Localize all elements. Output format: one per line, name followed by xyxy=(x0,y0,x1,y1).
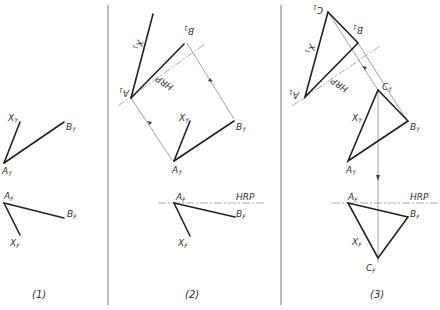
label-c1: C1 xyxy=(313,4,323,15)
label-bt: BT xyxy=(66,122,77,133)
panel-1: XT BT AT AF BF XF (1) xyxy=(1,113,77,300)
line-af-xf xyxy=(174,203,190,236)
label-bf: BF xyxy=(410,209,420,220)
label-af: AF xyxy=(175,192,186,203)
label-af: AF xyxy=(347,192,358,203)
caption-1: (1) xyxy=(32,289,46,300)
line-at-bt xyxy=(174,121,234,161)
line-at-bt xyxy=(4,122,64,163)
label-a1: A1 xyxy=(119,87,130,98)
line-af-bf xyxy=(174,203,235,217)
label-bf: BF xyxy=(67,209,77,220)
panel-3: A1 B1 C1 X1 HRP CT XT BT AT AF HRP BF XF… xyxy=(289,4,440,300)
label-hrp-aux: HRP xyxy=(154,73,175,92)
label-xf: XF xyxy=(177,238,188,249)
label-at: AT xyxy=(171,165,183,176)
label-xt: XT xyxy=(351,113,363,124)
label-bf: BF xyxy=(236,209,246,220)
label-ct: CT xyxy=(382,82,393,93)
label-hrp-aux: HRP xyxy=(329,75,350,94)
label-cf: CF xyxy=(366,263,376,274)
label-b1: B1 xyxy=(184,25,194,36)
label-at: AT xyxy=(345,165,357,176)
label-xf: XF xyxy=(351,237,362,248)
panel-2: A1 B1 X1 HRP XT BT AT AF HRP BF XF (2) xyxy=(118,14,265,300)
label-at: AT xyxy=(1,166,13,177)
label-bt: BT xyxy=(410,122,421,133)
label-af: AF xyxy=(3,191,14,202)
label-x1: X1 xyxy=(304,42,317,55)
label-xt: XT xyxy=(178,113,190,124)
orthographic-projection-figure: XT BT AT AF BF XF (1) A1 B1 X1 HRP XT BT… xyxy=(0,0,440,310)
line-a1-x1 xyxy=(131,14,153,98)
label-hrp-front: HRP xyxy=(236,192,255,202)
label-xt: XT xyxy=(7,113,19,124)
line-af-xf xyxy=(4,203,20,235)
label-xf: XF xyxy=(9,238,20,249)
arrow-down xyxy=(376,175,380,181)
label-a1: A1 xyxy=(289,89,300,100)
label-bt: BT xyxy=(236,122,247,133)
projector-a xyxy=(131,98,172,160)
caption-3: (3) xyxy=(370,289,384,300)
line-af-bf xyxy=(4,203,64,218)
caption-2: (2) xyxy=(185,289,199,300)
line-a1-b1 xyxy=(131,44,184,98)
label-hrp-front: HRP xyxy=(410,192,429,202)
label-b1: B1 xyxy=(353,24,363,35)
